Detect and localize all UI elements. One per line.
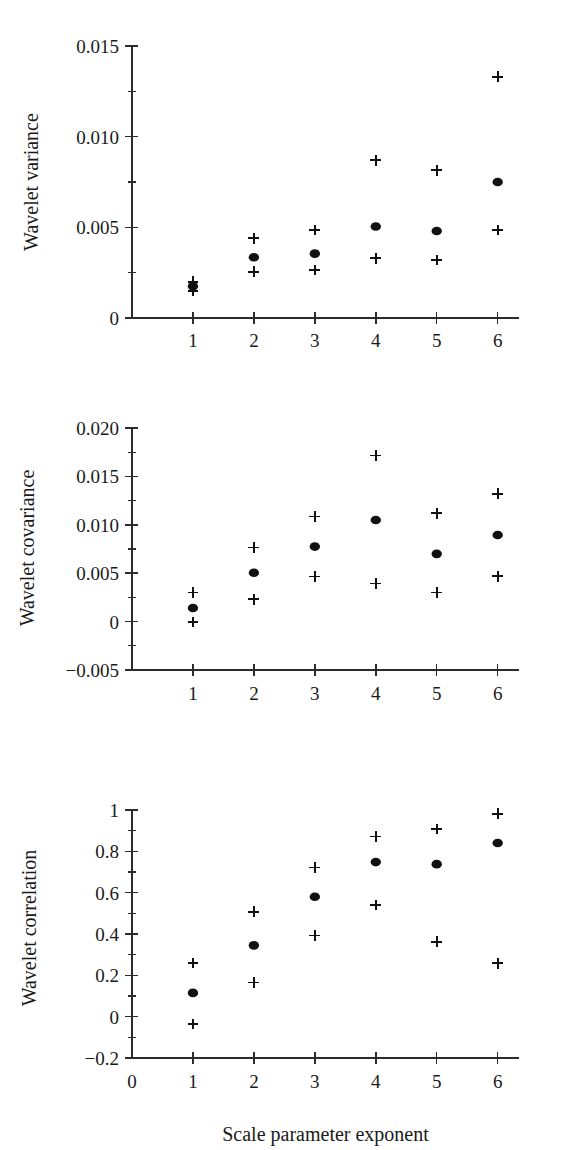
x-tick-label: 6 [493,683,503,704]
data-point-estimate [249,941,259,950]
y-tick-label: 0.8 [95,841,119,862]
x-tick-label: 2 [249,1071,259,1092]
x-tick-label: 3 [310,1071,320,1092]
y-axis-title: Wavelet covariance [16,470,38,627]
plot-area-2: −0.200.20.40.60.810123456Wavelet correla… [0,765,577,1150]
x-tick-label: 1 [188,683,198,704]
y-tick-label: 0.015 [76,466,119,487]
y-tick-label: 0 [110,612,120,633]
x-tick-label: 4 [371,683,381,704]
y-tick-label: 0.010 [76,515,119,536]
data-point-estimate [371,858,381,867]
y-tick-label: 0.020 [76,418,119,439]
y-axis-title: Wavelet variance [20,113,42,251]
y-tick-label: 0 [110,308,120,329]
x-tick-label: 3 [310,683,320,704]
panel-wavelet-covariance: −0.00500.0050.0100.0150.020123456Wavelet… [0,380,577,765]
x-tick-label: 5 [432,330,442,351]
data-point-estimate [492,178,502,187]
x-tick-label: 1 [188,330,198,351]
y-axis-title: Wavelet correlation [18,850,40,1007]
data-point-estimate [310,249,320,258]
axis-spines [132,810,519,1058]
wavelet-figure: 00.0050.0100.015123456Wavelet variance −… [0,0,577,1150]
y-tick-label: 0.005 [76,217,119,238]
y-tick-label: −0.005 [66,660,119,681]
plot-area-0: 00.0050.0100.015123456Wavelet variance [0,0,577,380]
data-point-estimate [492,839,502,848]
x-tick-label: 4 [371,330,381,351]
data-point-estimate [432,550,442,559]
x-tick-label: 6 [493,1071,503,1092]
x-tick-label: 2 [249,683,259,704]
x-axis-title: Scale parameter exponent [222,1123,429,1146]
axis-spines [132,428,519,670]
y-tick-label: 0.4 [95,924,119,945]
y-tick-label: 0.015 [76,36,119,57]
x-tick-label: 5 [432,683,442,704]
data-point-estimate [432,227,442,236]
panel-wavelet-correlation: −0.200.20.40.60.810123456Wavelet correla… [0,765,577,1150]
x-tick-label: 3 [310,330,320,351]
x-tick-label: 6 [493,330,503,351]
x-tick-label: 5 [432,1071,442,1092]
data-point-estimate [188,604,198,613]
data-point-estimate [371,516,381,525]
plot-area-1: −0.00500.0050.0100.0150.020123456Wavelet… [0,380,577,765]
x-tick-label: 0 [127,1071,137,1092]
y-tick-label: −0.2 [85,1048,119,1069]
y-tick-label: 0.010 [76,127,119,148]
data-point-estimate [310,542,320,551]
panel-wavelet-variance: 00.0050.0100.015123456Wavelet variance [0,0,577,380]
y-tick-label: 0.2 [95,965,119,986]
data-point-estimate [310,893,320,902]
data-point-estimate [492,531,502,540]
y-tick-label: 1 [110,800,120,821]
data-point-estimate [432,860,442,869]
data-point-estimate [249,253,259,262]
data-point-estimate [188,989,198,998]
x-tick-label: 2 [249,330,259,351]
x-tick-label: 1 [188,1071,198,1092]
y-tick-label: 0 [110,1007,120,1028]
y-tick-label: 0.005 [76,563,119,584]
data-point-estimate [371,222,381,231]
axis-spines [132,46,519,318]
x-tick-label: 4 [371,1071,381,1092]
y-tick-label: 0.6 [95,883,119,904]
data-point-estimate [249,568,259,577]
